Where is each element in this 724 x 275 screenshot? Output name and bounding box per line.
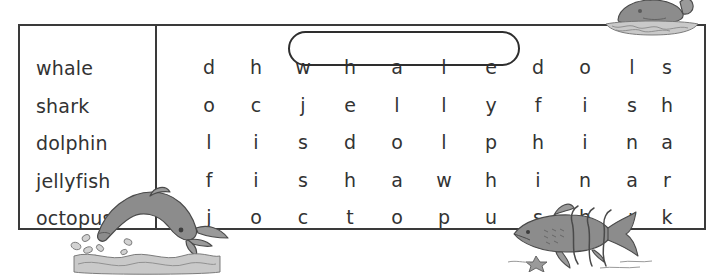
grid-cell[interactable]: a: [619, 167, 645, 193]
grid-cell[interactable]: o: [243, 204, 269, 230]
word-list-item-shark[interactable]: shark: [36, 95, 154, 117]
grid-cell[interactable]: o: [196, 92, 222, 118]
word-list-item-whale[interactable]: whale: [36, 57, 154, 79]
grid-cell[interactable]: c: [243, 92, 269, 118]
word-list: whale shark dolphin jellyfish octopus: [36, 24, 154, 230]
grid-cell[interactable]: l: [384, 92, 410, 118]
grid-row: f i s h a w h i n a r: [196, 167, 696, 193]
grid-cell[interactable]: o: [384, 204, 410, 230]
grid-cell[interactable]: o: [572, 54, 598, 80]
grid-cell[interactable]: l: [196, 129, 222, 155]
grid-cell[interactable]: f: [525, 92, 551, 118]
word-list-item-octopus[interactable]: octopus: [36, 207, 154, 229]
grid-cell[interactable]: i: [243, 129, 269, 155]
grid-row: o c j e l l y f i s h: [196, 92, 696, 118]
grid-cell[interactable]: s: [654, 54, 680, 80]
grid-cell[interactable]: e: [337, 92, 363, 118]
grid-cell[interactable]: c: [290, 204, 316, 230]
grid-cell[interactable]: h: [337, 167, 363, 193]
grid-cell[interactable]: n: [572, 167, 598, 193]
grid-cell[interactable]: u: [478, 204, 504, 230]
grid-cell[interactable]: l: [619, 54, 645, 80]
grid-cell[interactable]: h: [572, 204, 598, 230]
grid-cell[interactable]: k: [654, 204, 680, 230]
grid-cell[interactable]: s: [290, 129, 316, 155]
grid-cell[interactable]: j: [196, 204, 222, 230]
grid-cell[interactable]: a: [384, 167, 410, 193]
grid-cell[interactable]: o: [384, 129, 410, 155]
grid-cell[interactable]: s: [525, 204, 551, 230]
grid-cell[interactable]: l: [431, 129, 457, 155]
grid-cell[interactable]: i: [525, 167, 551, 193]
grid-row: j o c t o p u s h r k: [196, 204, 696, 230]
grid-cell[interactable]: d: [525, 54, 551, 80]
word-list-divider: [155, 24, 157, 230]
grid-cell[interactable]: r: [654, 167, 680, 193]
grid-cell[interactable]: h: [243, 54, 269, 80]
grid-cell[interactable]: j: [290, 92, 316, 118]
grid-cell[interactable]: s: [619, 92, 645, 118]
grid-cell[interactable]: i: [243, 167, 269, 193]
found-word-circle-whale: [288, 31, 520, 66]
grid-cell[interactable]: r: [619, 204, 645, 230]
grid-cell[interactable]: p: [478, 129, 504, 155]
grid-cell[interactable]: t: [337, 204, 363, 230]
word-list-item-dolphin[interactable]: dolphin: [36, 132, 154, 154]
grid-cell[interactable]: h: [654, 92, 680, 118]
grid-cell[interactable]: h: [478, 167, 504, 193]
grid-cell[interactable]: i: [572, 92, 598, 118]
grid-cell[interactable]: f: [196, 167, 222, 193]
grid-cell[interactable]: d: [196, 54, 222, 80]
grid-cell[interactable]: a: [654, 129, 680, 155]
grid-cell[interactable]: s: [290, 167, 316, 193]
word-list-item-jellyfish[interactable]: jellyfish: [36, 170, 154, 192]
grid-cell[interactable]: w: [431, 167, 457, 193]
grid-cell[interactable]: y: [478, 92, 504, 118]
grid-cell[interactable]: n: [619, 129, 645, 155]
grid-cell[interactable]: i: [572, 129, 598, 155]
grid-row: l i s d o l p h i n a: [196, 129, 696, 155]
grid-cell[interactable]: h: [525, 129, 551, 155]
grid-cell[interactable]: l: [431, 92, 457, 118]
grid-cell[interactable]: p: [431, 204, 457, 230]
grid-cell[interactable]: d: [337, 129, 363, 155]
